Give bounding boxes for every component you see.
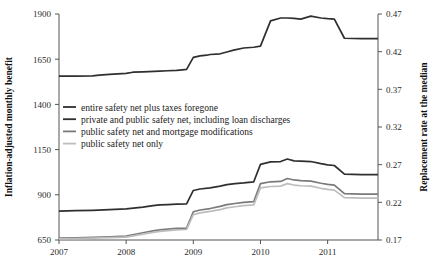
y-tick-label-left: 1900 (33, 9, 52, 19)
y-tick-label-left: 1400 (33, 100, 52, 110)
series-line-2 (59, 179, 378, 239)
x-tick-label: 2007 (50, 247, 69, 257)
y-tick-label-right: 0.42 (386, 47, 402, 57)
chart-figure: 6509001150140016501900 0.170.220.270.320… (0, 0, 439, 273)
y-tick-label-right: 0.22 (386, 198, 402, 208)
legend-label: entire safety net plus taxes foregone (81, 103, 218, 113)
y-axis-left-ticks: 6509001150140016501900 (33, 9, 59, 245)
y-axis-right-ticks: 0.170.220.270.320.370.420.47 (378, 9, 402, 245)
x-tick-label: 2010 (251, 247, 270, 257)
y-tick-label-right: 0.47 (386, 9, 402, 19)
series-line-0 (59, 16, 378, 76)
legend-label: public safety net only (81, 139, 163, 149)
y-tick-label-left: 1150 (33, 145, 51, 155)
y-tick-label-left: 900 (38, 190, 52, 200)
y-tick-label-right: 0.17 (386, 235, 402, 245)
y-tick-label-left: 1650 (33, 55, 52, 65)
y-tick-label-right: 0.32 (386, 122, 402, 132)
legend-label: public safety net and mortgage modificat… (81, 127, 253, 137)
y-axis-right-title: Replacement rate at the median (419, 62, 429, 192)
series-line-3 (59, 184, 378, 239)
line-chart: 6509001150140016501900 0.170.220.270.320… (0, 0, 439, 273)
x-tick-label: 2008 (117, 247, 136, 257)
x-axis-ticks: 20072008200920102011 (50, 240, 336, 257)
x-tick-label: 2009 (184, 247, 203, 257)
y-tick-label-right: 0.37 (386, 85, 402, 95)
y-tick-label-left: 650 (38, 235, 52, 245)
y-tick-label-right: 0.27 (386, 160, 402, 170)
x-tick-label: 2011 (319, 247, 337, 257)
chart-legend: entire safety net plus taxes foregonepri… (63, 103, 291, 150)
y-axis-left-title: Inflation-adjusted monthly benefit (4, 56, 14, 197)
legend-label: private and public safety net, including… (81, 115, 291, 125)
